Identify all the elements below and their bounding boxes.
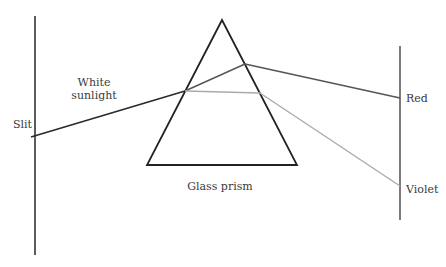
violet-ray-exit [260,93,400,186]
prism-dispersion-diagram: White sunlight Slit Glass prism Red Viol… [0,0,446,267]
label-violet: Violet [405,183,439,196]
red-ray-exit [245,64,400,98]
label-glass-prism: Glass prism [187,180,253,193]
label-slit: Slit [13,118,33,131]
label-red: Red [406,92,428,105]
red-ray-internal [185,64,245,91]
label-white-line1: White [78,76,111,89]
label-white-line2: sunlight [71,89,117,102]
violet-ray-internal [185,91,260,93]
